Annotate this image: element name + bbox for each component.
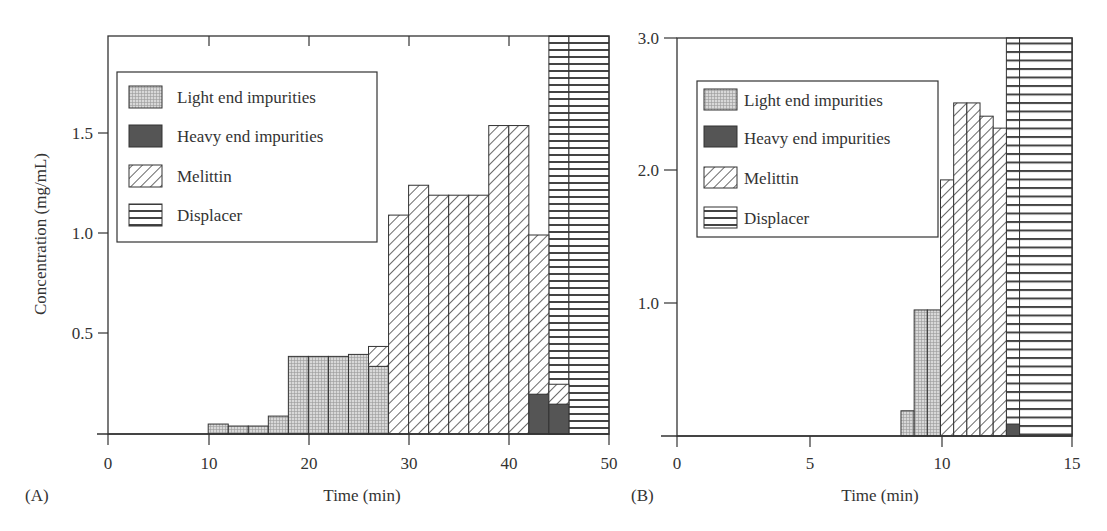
bar-melittin: [941, 180, 954, 436]
displacer-swatch-icon: [704, 207, 737, 228]
panel-b-x-axis-title: Time (min): [841, 486, 918, 505]
bar-melittin: [429, 195, 449, 434]
bar-melittin: [980, 116, 993, 436]
panel-b-ytick-label: 2.0: [638, 161, 659, 180]
bar-melittin: [549, 384, 569, 404]
bar-light: [308, 356, 328, 434]
bar-light: [914, 310, 927, 436]
legend-label-melittin: Melittin: [744, 169, 799, 188]
displacer-swatch-icon: [129, 204, 162, 226]
panel-a-ytick-label: 0.5: [72, 324, 93, 343]
legend-label-light: Light end impurities: [177, 88, 316, 107]
legend-label-displacer: Displacer: [177, 206, 242, 225]
bar-light: [328, 356, 348, 434]
panel-a-xtick-label: 30: [401, 454, 418, 473]
panel-b: 1.0 2.0 3.0 0 5 10 15 Time (min) (B) Lig…: [631, 29, 1081, 505]
panel-a-legend: Light end impurities Heavy end impuritie…: [117, 72, 377, 242]
panel-a-x-axis-title: Time (min): [323, 486, 400, 505]
panel-b-xtick-label: 15: [1064, 454, 1081, 473]
bar-light: [228, 426, 248, 434]
bar-displacer: [1020, 38, 1073, 436]
panel-b-ytick-label: 3.0: [638, 29, 659, 48]
panel-b-xtick-label: 5: [806, 454, 815, 473]
light-impurities-swatch-icon: [129, 86, 162, 108]
panel-b-xtick-label: 10: [934, 454, 951, 473]
legend-label-displacer: Displacer: [744, 209, 809, 228]
heavy-impurities-swatch-icon: [129, 125, 162, 147]
bar-light: [927, 310, 940, 436]
panel-b-ytick-label: 1.0: [638, 294, 659, 313]
legend-label-heavy: Heavy end impurities: [744, 129, 890, 148]
legend-label-melittin: Melittin: [177, 167, 232, 186]
figure: 0.5 1.0 1.5 0 10 20 30 40 50 Time (min) …: [0, 0, 1107, 531]
melittin-swatch-icon: [704, 167, 737, 188]
legend-label-heavy: Heavy end impurities: [177, 127, 323, 146]
panel-a-label: (A): [25, 486, 49, 505]
melittin-swatch-icon: [129, 165, 162, 187]
panel-a-y-ticks: 0.5 1.0 1.5: [72, 124, 108, 343]
bar-light: [268, 416, 288, 434]
panel-a-xtick-label: 20: [301, 454, 318, 473]
bar-light: [288, 356, 308, 434]
bar-melittin: [993, 128, 1006, 436]
light-impurities-swatch-icon: [704, 89, 737, 110]
bar-melittin: [967, 103, 980, 436]
panel-a-ytick-label: 1.0: [72, 224, 93, 243]
bar-displacer: [549, 36, 569, 434]
bar-light: [369, 366, 389, 434]
legend-label-light: Light end impurities: [744, 91, 883, 110]
bar-heavy: [1006, 424, 1019, 436]
bar-melittin: [369, 346, 389, 366]
panel-b-xtick-label: 0: [673, 454, 682, 473]
bar-heavy: [529, 394, 549, 434]
panel-b-label: (B): [631, 486, 654, 505]
bar-melittin: [409, 185, 429, 434]
bar-heavy: [549, 404, 569, 434]
panel-a-xtick-label: 0: [104, 454, 113, 473]
bar-displacer: [569, 36, 609, 434]
bar-melittin: [529, 235, 549, 394]
bar-melittin: [469, 195, 489, 434]
panel-b-legend: Light end impurities Heavy end impuritie…: [697, 81, 938, 237]
bar-melittin: [449, 195, 469, 434]
panel-a: 0.5 1.0 1.5 0 10 20 30 40 50 Time (min) …: [25, 36, 618, 505]
panel-b-x-ticks: 0 5 10 15: [673, 436, 1081, 473]
bar-displacer: [1006, 38, 1019, 436]
bar-light: [208, 424, 228, 434]
panel-a-xtick-label: 40: [501, 454, 518, 473]
heavy-impurities-swatch-icon: [704, 126, 737, 147]
bar-melittin: [509, 126, 529, 434]
panel-a-xtick-label: 50: [601, 454, 618, 473]
bar-light: [348, 354, 368, 434]
bar-light: [901, 411, 914, 436]
bar-melittin: [954, 103, 967, 436]
panel-a-xtick-label: 10: [201, 454, 218, 473]
panel-a-ytick-label: 1.5: [72, 124, 93, 143]
bar-light: [248, 426, 268, 434]
panel-a-y-axis-title: Concentration (mg/mL): [31, 153, 50, 315]
panel-b-y-ticks: 1.0 2.0 3.0: [638, 29, 677, 313]
bar-melittin: [489, 126, 509, 434]
bar-melittin: [389, 215, 409, 434]
